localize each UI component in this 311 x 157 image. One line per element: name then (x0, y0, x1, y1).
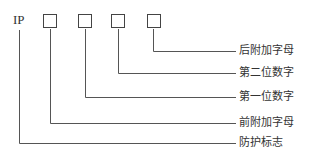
label-second-digit: 第二位数字 (239, 67, 294, 79)
label-first-digit: 第一位数字 (239, 91, 294, 103)
code-box-suffix-letter (147, 14, 161, 28)
code-box-first-digit (78, 14, 92, 28)
code-box-prefix-letter (43, 14, 57, 28)
ip-prefix-label: IP (13, 12, 25, 28)
label-protection-mark: 防护标志 (239, 137, 283, 149)
label-prefix-letter: 前附加字母 (239, 117, 294, 129)
label-suffix-letter: 后附加字母 (239, 45, 294, 57)
code-box-second-digit (111, 14, 125, 28)
